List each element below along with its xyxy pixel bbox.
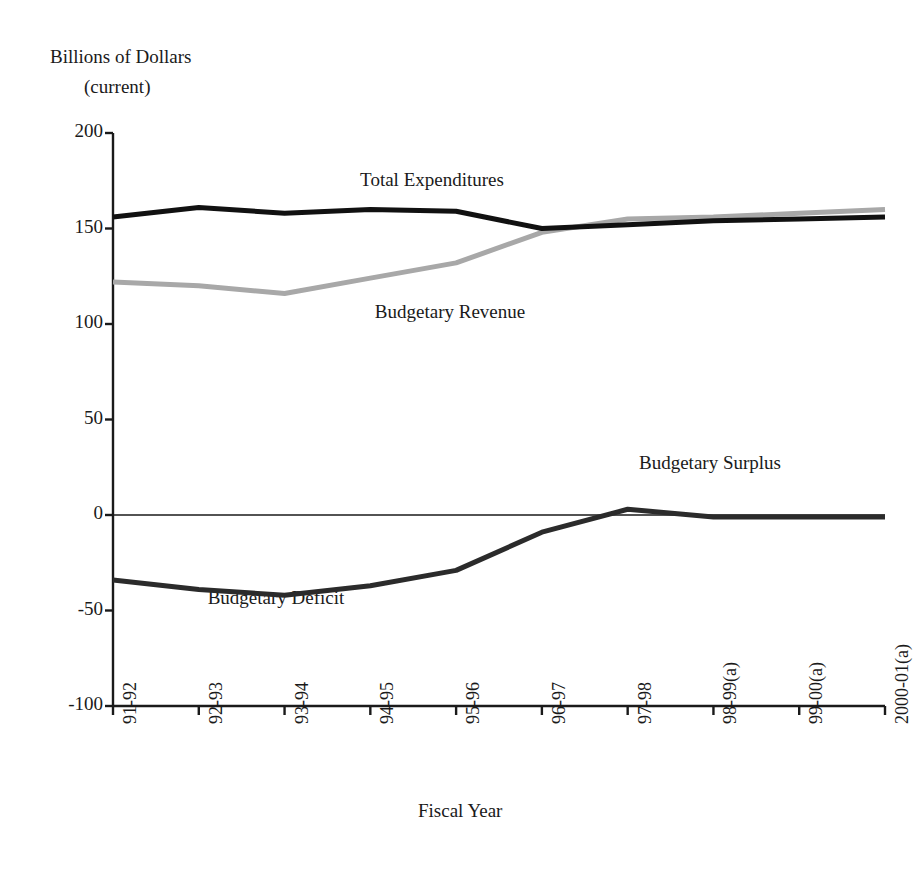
data-series-group [113,207,885,595]
series-line [113,509,885,595]
series-line [113,207,885,228]
